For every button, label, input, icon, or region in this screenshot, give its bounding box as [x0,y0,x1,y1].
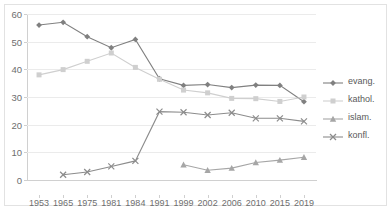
data-point-square [181,88,186,93]
data-point-square [229,96,234,101]
data-point-square [331,99,336,104]
x-tick-label: 2006 [222,198,242,208]
data-point-diamond [330,80,336,86]
y-tick-mark [24,180,27,181]
series-line [39,22,304,101]
data-point-diamond [108,45,114,51]
data-point-square [277,99,282,104]
y-tick-label: 20 [11,119,22,130]
data-point-diamond [60,19,66,25]
x-tick-mark [232,195,233,198]
data-point-square [109,51,114,56]
x-tick-label: 1965 [53,198,73,208]
legend-item-islam[interactable]: islam. [322,108,388,126]
x-tick-label: 1981 [101,198,121,208]
x-tick-mark [184,195,185,198]
y-tick-label: 0 [17,175,22,186]
series-line [39,53,304,101]
legend-marker-square-icon [322,93,344,105]
x-tick-label: 2002 [198,198,218,208]
x-tick-mark [63,195,64,198]
x-tick-mark [159,195,160,198]
legend-marker-triangle-icon [322,111,344,123]
plot-area: 0102030405060 19531965197519811984199119… [27,14,316,180]
data-point-diamond [132,37,138,43]
data-point-square [205,90,210,95]
data-point-diamond [36,22,42,28]
data-point-diamond [84,34,90,40]
x-axis-line [27,180,317,181]
data-point-square [301,95,306,100]
x-tick-label: 2019 [294,198,314,208]
legend-label: evang. [348,76,375,86]
x-tick-mark [39,195,40,198]
data-point-square [253,96,258,101]
data-point-square [133,65,138,70]
x-tick-mark [111,195,112,198]
series-kathol [37,51,307,104]
data-point-square [157,77,162,82]
x-tick-mark [87,195,88,198]
data-point-triangle [180,162,186,168]
legend-label: konfl. [348,130,370,140]
series-evang [36,19,307,104]
legend-item-kathol[interactable]: kathol. [322,90,388,108]
series-islam [180,154,307,173]
data-point-square [61,67,66,72]
series-line [184,157,304,170]
chart-legend: evang.kathol.islam.konfl. [322,72,388,144]
x-tick-label: 2015 [270,198,290,208]
chart-container: 0102030405060 19531965197519811984199119… [0,0,392,214]
data-point-diamond [229,85,235,91]
series-layer [27,14,316,180]
y-tick-label: 40 [11,64,22,75]
y-tick-label: 60 [11,9,22,20]
legend-marker-diamond-icon [322,75,344,87]
y-tick-label: 10 [11,147,22,158]
data-point-square [37,72,42,77]
legend-label: islam. [348,112,372,122]
legend-item-evang[interactable]: evang. [322,72,388,90]
x-tick-label: 1984 [125,198,145,208]
x-tick-mark [208,195,209,198]
x-tick-label: 1953 [29,198,49,208]
x-tick-label: 2010 [246,198,266,208]
legend-item-konfl[interactable]: konfl. [322,126,388,144]
x-tick-label: 1999 [174,198,194,208]
x-tick-mark [135,195,136,198]
x-tick-label: 1975 [77,198,97,208]
legend-label: kathol. [348,94,375,104]
y-tick-label: 30 [11,92,22,103]
data-point-diamond [253,82,259,88]
x-tick-mark [256,195,257,198]
legend-marker-cross-icon [322,129,344,141]
x-tick-label: 1991 [149,198,169,208]
data-point-diamond [205,82,211,88]
data-point-square [85,59,90,64]
data-point-diamond [181,82,187,88]
x-tick-mark [304,195,305,198]
y-tick-label: 50 [11,36,22,47]
chart-title-clipped [150,0,270,3]
x-tick-mark [280,195,281,198]
